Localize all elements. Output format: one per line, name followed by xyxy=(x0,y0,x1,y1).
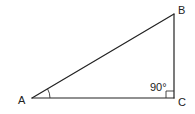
right-triangle-diagram: 90° A B C xyxy=(0,0,195,114)
angle-label-c: 90° xyxy=(150,81,167,93)
angle-arc-a xyxy=(48,89,51,98)
right-angle-marker-c xyxy=(166,91,174,98)
vertex-label-a: A xyxy=(18,94,26,106)
vertex-label-b: B xyxy=(178,4,185,16)
vertex-label-c: C xyxy=(178,96,186,108)
